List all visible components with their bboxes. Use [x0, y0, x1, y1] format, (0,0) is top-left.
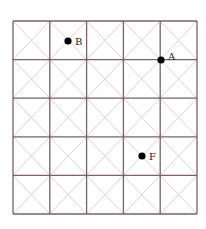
point-dot-icon [138, 152, 145, 159]
point-label: A [167, 51, 176, 62]
point-dot-icon [64, 37, 71, 44]
point-dot-icon [157, 56, 164, 63]
point-label: F [149, 151, 156, 162]
point-f: F [138, 151, 156, 162]
grid-diagonals [13, 21, 197, 214]
point-label: B [75, 36, 82, 47]
grid-diagram: BAF [0, 0, 206, 229]
